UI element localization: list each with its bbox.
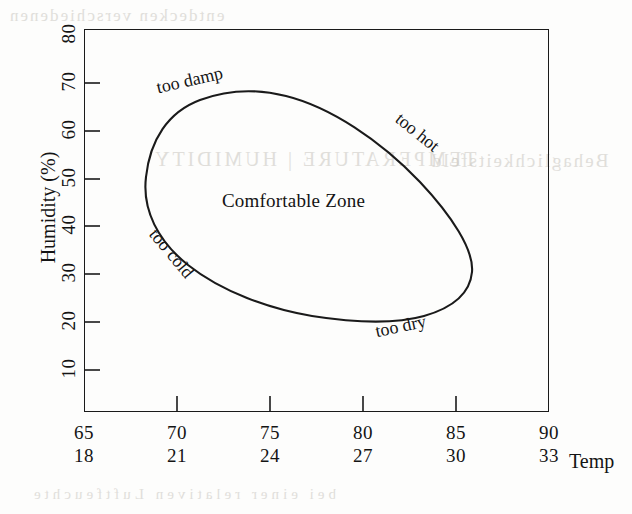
x-tick-65-fahrenheit: 65 — [49, 422, 119, 444]
x-tick-85: 85 30 — [421, 422, 491, 468]
y-tick-20: 20 — [48, 311, 88, 330]
x-tick-70: 70 21 — [142, 422, 212, 468]
chart-page: entdecken verschiedenen TEMPERATURE | HU… — [0, 0, 632, 514]
x-tick-70-celsius: 21 — [142, 444, 212, 468]
x-tick-75-fahrenheit: 75 — [235, 422, 305, 444]
x-tick-70-fahrenheit: 70 — [142, 422, 212, 444]
x-tick-80-fahrenheit: 80 — [328, 422, 398, 444]
y-tick-70: 70 — [48, 72, 88, 91]
x-tick-85-fahrenheit: 85 — [421, 422, 491, 444]
scan-bleed-top: entdecken verschiedenen — [8, 6, 224, 26]
x-tick-80-celsius: 27 — [328, 444, 398, 468]
y-axis-title: Humidity (%) — [37, 138, 60, 278]
y-tick-80: 80 — [48, 24, 88, 43]
x-tick-90-fahrenheit: 90 — [514, 422, 584, 444]
x-tick-65: 65 18 — [49, 422, 119, 468]
scan-bleed-bottom: bei einer relativen Luftfeuchte — [30, 486, 336, 503]
x-tick-75-celsius: 24 — [235, 444, 305, 468]
x-axis-title: Temp — [569, 450, 614, 473]
plot-frame — [84, 29, 549, 412]
x-tick-65-celsius: 18 — [49, 444, 119, 468]
y-tick-10: 10 — [48, 359, 88, 378]
x-tick-85-celsius: 30 — [421, 444, 491, 468]
x-tick-80: 80 27 — [328, 422, 398, 468]
x-tick-75: 75 24 — [235, 422, 305, 468]
annotation-comfortable-zone: Comfortable Zone — [222, 190, 365, 212]
y-tick-60: 60 — [48, 120, 88, 139]
